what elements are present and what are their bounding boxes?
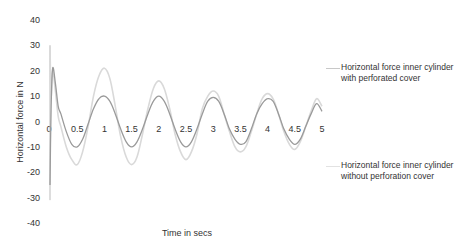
x-tick-label: 1.5 (125, 124, 138, 134)
y-tick-label: -20 (27, 167, 40, 177)
x-axis-label: Time in secs (162, 228, 213, 238)
legend-swatch-perforated (326, 68, 340, 69)
y-tick-label: 10 (30, 91, 40, 101)
x-tick-label: 4 (265, 124, 270, 134)
y-axis-ticks: 403020100-10-20-30-40 (27, 15, 40, 228)
x-tick-label: 3 (211, 124, 216, 134)
y-tick-label: 30 (30, 40, 40, 50)
x-tick-label: 1 (102, 124, 107, 134)
y-tick-label: -10 (27, 142, 40, 152)
legend-swatch-no-perforation (326, 166, 340, 167)
legend-label-perforated: Horizontal force inner cylinder with per… (341, 62, 458, 84)
y-axis-label: Horizontal force in N (15, 81, 25, 163)
legend-label-no-perforation: Horizontal force inner cylinder without … (341, 160, 458, 182)
y-tick-label: 40 (30, 15, 40, 25)
x-tick-label: 4.5 (289, 124, 302, 134)
y-tick-label: -30 (27, 193, 40, 203)
x-tick-label: 5 (319, 124, 324, 134)
x-tick-label: 2.5 (180, 124, 193, 134)
x-tick-label: 2 (156, 124, 161, 134)
y-tick-label: 0 (35, 117, 40, 127)
x-tick-label: 0.5 (71, 124, 84, 134)
y-tick-label: 20 (30, 66, 40, 76)
x-tick-label: 3.5 (234, 124, 247, 134)
y-tick-label: -40 (27, 218, 40, 228)
series-lines (50, 45, 322, 185)
